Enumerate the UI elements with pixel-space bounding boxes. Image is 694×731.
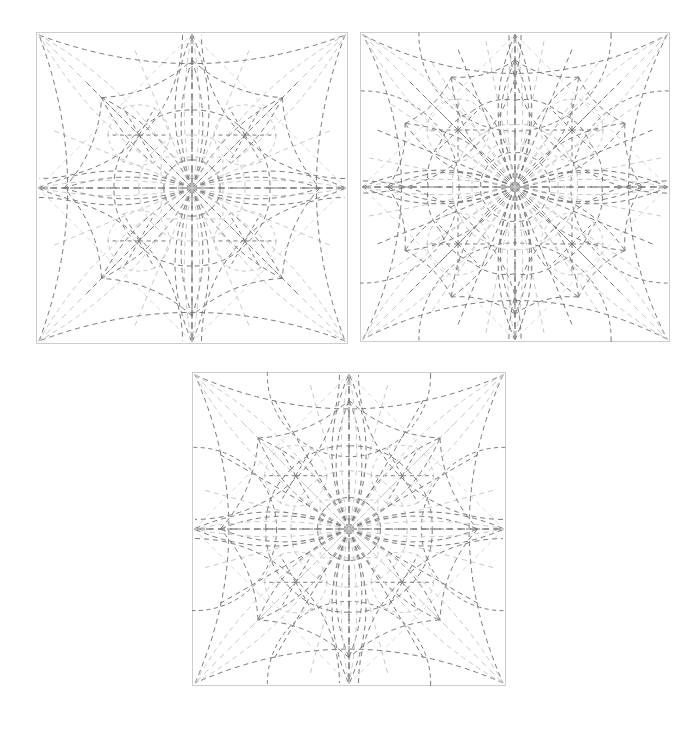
figure-board	[0, 0, 694, 731]
panel-top-left[interactable]	[36, 32, 348, 344]
panel-bottom-center[interactable]	[192, 372, 506, 686]
panel-top-right[interactable]	[360, 32, 670, 342]
